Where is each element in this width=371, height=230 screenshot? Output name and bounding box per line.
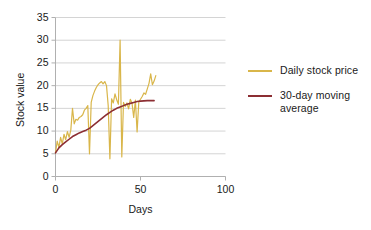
x-tick-label: 0	[36, 183, 76, 195]
x-tick-label: 50	[121, 183, 161, 195]
y-tick-label: 15	[16, 101, 49, 113]
y-tick-label: 20	[16, 79, 49, 91]
legend-swatch-moving-average	[248, 95, 272, 97]
y-tick-label: 35	[16, 11, 49, 23]
legend-swatch-daily-stock-price	[248, 70, 272, 72]
legend-item-daily-stock-price: Daily stock price	[248, 64, 366, 77]
y-tick-label: 5	[16, 147, 49, 159]
x-axis-title: Days	[56, 203, 226, 215]
legend-label-daily-stock-price: Daily stock price	[280, 64, 358, 77]
y-tick-label: 30	[16, 33, 49, 45]
y-tick-label: 0	[16, 170, 49, 182]
legend-item-moving-average: 30-day moving average	[248, 89, 366, 115]
y-tick-label: 10	[16, 124, 49, 136]
x-tick-label: 100	[206, 183, 246, 195]
stock-price-chart: Stock value Days Daily stock price 30-da…	[0, 0, 371, 230]
series-daily-stock-price	[56, 40, 156, 159]
chart-legend: Daily stock price 30-day moving average	[248, 64, 366, 127]
legend-label-moving-average: 30-day moving average	[280, 89, 366, 115]
y-tick-label: 25	[16, 56, 49, 68]
